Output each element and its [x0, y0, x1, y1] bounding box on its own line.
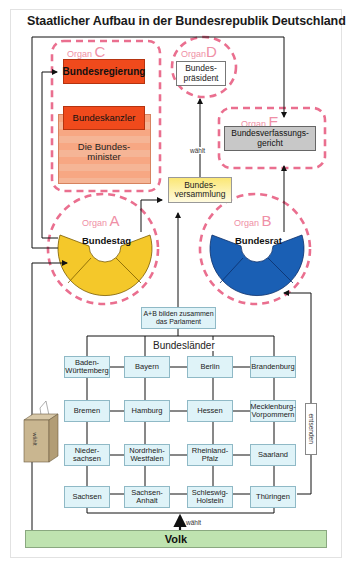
land-box: Schleswig-Holstein	[187, 486, 233, 508]
parlament-box: A+B bilden zusammen das Parlament	[141, 307, 216, 329]
bundestag-label: Bundestag	[82, 235, 131, 246]
land-box: Bayern	[124, 356, 170, 378]
organ-d-label: OrganD	[181, 43, 217, 60]
land-box: Nordrhein-Westfalen	[124, 444, 170, 466]
bundespraesident-box: Bundes-präsident	[176, 61, 226, 86]
land-box: Nieder-sachsen	[64, 444, 110, 466]
entsenden-label: entsenden	[307, 414, 314, 444]
land-box: Mecklenburg-Vorpommern	[250, 400, 296, 422]
land-box: Hessen	[187, 400, 233, 422]
volk-bar: Volk	[25, 530, 327, 548]
bundeskanzler-box: Bundeskanzler	[63, 106, 145, 130]
bundesregierung-box: Bundesregierung	[63, 59, 145, 84]
volk-waehlt-label: wählt	[186, 519, 201, 526]
land-box: Bremen	[64, 400, 110, 422]
entsenden-box: entsenden	[305, 403, 317, 455]
land-box: Sachsen	[64, 486, 110, 508]
land-box: Brandenburg	[250, 356, 296, 378]
land-box: Saarland	[250, 444, 296, 466]
bundesrat-label: Bundesrat	[235, 235, 282, 246]
land-box: Rheinland-Pfalz	[187, 444, 233, 466]
ballot-box-icon	[24, 401, 58, 462]
organ-c-label: Organ C	[67, 43, 105, 60]
bundesversammlung-box: Bundes-versammlung	[168, 177, 232, 203]
bundesminister-label: Die Bundes-minister	[72, 138, 136, 166]
land-box: Hamburg	[124, 400, 170, 422]
bundeslaender-heading: Bundesländer	[151, 340, 217, 351]
land-box: Baden-Württemberg	[64, 356, 110, 378]
waehlt-label: wählt	[189, 147, 206, 154]
land-box: Sachsen-Anhalt	[124, 486, 170, 508]
land-box: Berlin	[187, 356, 233, 378]
bundesverfassungsgericht-box: Bundesverfassungs-gericht	[224, 126, 316, 151]
ballot-box-label: wählt	[32, 433, 38, 446]
organ-b-label: Organ B	[234, 212, 272, 229]
organ-a-label: Organ A	[82, 212, 120, 229]
land-box: Thüringen	[250, 486, 296, 508]
